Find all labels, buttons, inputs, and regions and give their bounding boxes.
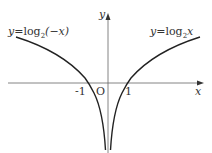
left-curve [16,37,106,150]
left-label-eq: =log [14,25,40,38]
graph-canvas [0,0,212,153]
right-label-arg: x [187,25,193,38]
tick-label-1: 1 [125,86,132,97]
x-axis-label: x [195,86,201,97]
right-curve [111,37,201,150]
y-axis-arrow-icon [106,13,111,20]
y-axis-label: y [99,9,105,20]
right-curve-label: y=log2x [150,26,193,40]
right-label-eq: =log [156,25,182,38]
tick-label-neg1: -1 [75,86,86,97]
left-label-arg: (−x) [45,25,69,38]
origin-label: O [96,86,105,97]
left-curve-label: y=log2(−x) [8,26,69,40]
